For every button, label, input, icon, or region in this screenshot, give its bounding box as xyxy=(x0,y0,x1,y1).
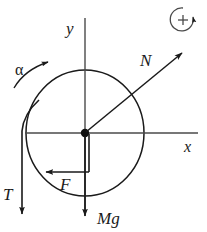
applied-force-label: F xyxy=(60,176,70,193)
y-axis-label: y xyxy=(66,20,74,37)
angular-acceleration-label: α xyxy=(15,62,23,78)
diagram-canvas xyxy=(0,0,207,232)
normal-force-arrow xyxy=(86,53,182,132)
weight-force-label: Mg xyxy=(97,210,120,227)
normal-force-label: N xyxy=(140,52,151,69)
tension-force-label: T xyxy=(3,186,12,203)
physics-diagram: y x N Mg F T α xyxy=(0,0,207,232)
x-axis-label: x xyxy=(184,139,191,155)
